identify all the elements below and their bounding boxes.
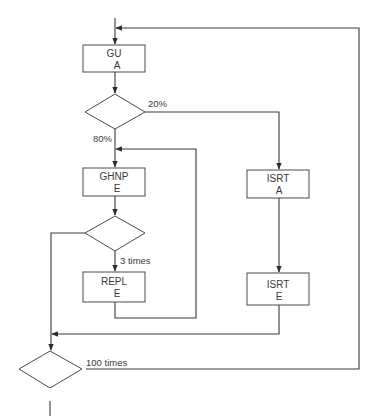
decision-3 xyxy=(19,351,82,388)
node-isrt-a-line2: A xyxy=(276,185,283,196)
label-3-times: 3 times xyxy=(120,255,151,266)
decision2-exit-connector xyxy=(51,233,85,350)
node-isrt-e-line2: E xyxy=(276,291,283,302)
node-isrt-e: ISRT E xyxy=(247,273,309,305)
node-gu-a-line1: GU xyxy=(107,48,122,59)
flowchart: GU A 20% 80% GHNP E 3 times REPL E ISRT … xyxy=(0,0,378,416)
node-isrt-e-line1: ISRT xyxy=(267,279,290,290)
node-isrt-a: ISRT A xyxy=(247,170,309,198)
node-ghnp-e-line1: GHNP xyxy=(100,171,129,182)
label-80pct: 80% xyxy=(93,133,113,144)
label-100-times: 100 times xyxy=(86,357,127,368)
node-ghnp-e-line2: E xyxy=(114,183,121,194)
node-repl-e: REPL E xyxy=(83,272,145,302)
decision-1 xyxy=(85,94,145,129)
node-gu-a-line2: A xyxy=(114,60,121,71)
isrte-merge-connector xyxy=(52,305,279,334)
node-isrt-a-line1: ISRT xyxy=(267,173,290,184)
branch-20pct-connector xyxy=(145,112,279,169)
label-20pct: 20% xyxy=(148,98,168,109)
node-gu-a: GU A xyxy=(83,45,145,72)
decision-2 xyxy=(85,216,145,251)
node-ghnp-e: GHNP E xyxy=(83,168,145,196)
node-repl-e-line1: REPL xyxy=(101,276,128,287)
node-repl-e-line2: E xyxy=(114,288,121,299)
